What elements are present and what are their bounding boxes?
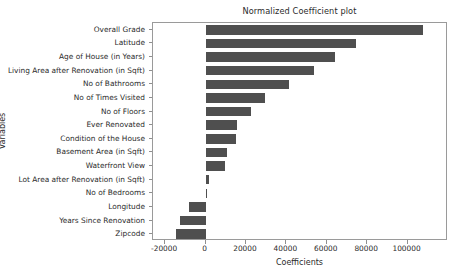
x-tick-mark [285,240,286,244]
y-tick-mark [149,97,153,98]
x-tick-mark [164,240,165,244]
y-tick-mark [149,165,153,166]
x-tick-mark [407,240,408,244]
bar [206,189,208,199]
y-tick-label: No of Floors [101,106,145,115]
bar [206,161,225,171]
x-tick-label: -20000 [151,244,177,253]
y-tick-label: Longitude [108,201,145,210]
y-tick-mark [149,111,153,112]
y-tick-label: Overall Grade [94,24,145,33]
y-tick-label: Ever Renovated [86,120,145,129]
x-axis-title: Coefficients [152,258,447,267]
y-tick-label: Lot Area after Renovation (in Sqft) [18,174,145,183]
bar [206,175,209,185]
y-tick-label: Zipcode [115,229,145,238]
bar [206,107,251,117]
y-tick-mark [149,124,153,125]
y-tick-label: Latitude [115,38,145,47]
x-tick-mark [245,240,246,244]
x-tick-label: 0 [202,244,207,253]
x-tick-label: 60000 [314,244,338,253]
y-tick-label: No of Times Visited [74,92,145,101]
y-tick-mark [149,151,153,152]
y-tick-label: Years Since Renovation [59,215,145,224]
chart-title: Normalized Coefficient plot [152,6,447,16]
x-tick-label: 40000 [274,244,298,253]
y-tick-mark [149,220,153,221]
x-tick-label: 20000 [233,244,257,253]
y-tick-mark [149,138,153,139]
y-tick-mark [149,233,153,234]
y-tick-label: No of Bedrooms [86,188,145,197]
y-axis-tick-labels: Overall GradeLatitudeAge of House (in Ye… [0,22,150,240]
bar [206,52,335,62]
y-tick-label: Basement Area (in Sqft) [56,147,145,156]
bar [206,120,237,130]
y-tick-label: Living Area after Renovation (in Sqft) [8,65,145,74]
y-tick-mark [149,206,153,207]
x-tick-label: 100000 [392,244,420,253]
x-tick-mark [366,240,367,244]
bar [180,216,205,226]
y-tick-mark [149,42,153,43]
bar [206,66,314,76]
bar [206,134,236,144]
x-tick-label: 80000 [354,244,378,253]
bar [206,25,423,35]
bar [206,39,357,49]
x-tick-mark [326,240,327,244]
y-tick-mark [149,83,153,84]
y-tick-mark [149,192,153,193]
x-axis-tick-labels: -20000020000400006000080000100000 [152,240,447,256]
y-tick-label: Age of House (in Years) [59,52,145,61]
bar [206,80,290,90]
bar [206,93,266,103]
x-tick-mark [205,240,206,244]
bar [176,229,205,239]
y-tick-mark [149,179,153,180]
bar [206,148,227,158]
y-tick-label: Waterfront View [86,161,145,170]
coefficient-bar-chart-figure: Normalized Coefficient plot Overall Grad… [0,0,461,280]
y-tick-label: Condition of the House [60,133,145,142]
plot-area [152,22,447,240]
y-tick-mark [149,56,153,57]
bar [189,202,205,212]
y-tick-label: No of Bathrooms [83,79,145,88]
y-tick-mark [149,29,153,30]
y-tick-mark [149,70,153,71]
y-axis-title: Variables [0,113,7,150]
bars-layer [153,23,446,239]
